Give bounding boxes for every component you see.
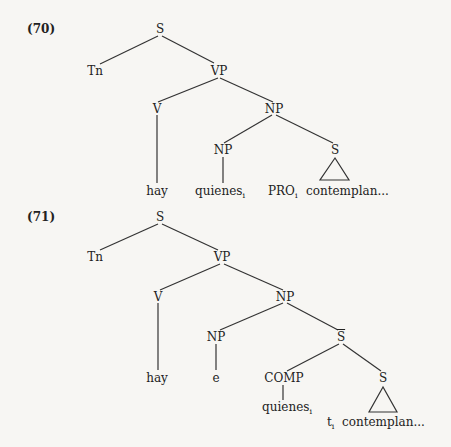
- leaf-hay: hay: [146, 372, 168, 384]
- node-tn: Tn: [87, 251, 103, 263]
- node-np: NP: [276, 291, 295, 303]
- node-v: V: [154, 291, 163, 303]
- leaf-pro: PROi: [268, 185, 298, 197]
- node-np-lower: NP: [207, 331, 226, 343]
- example-number: (71): [27, 211, 55, 223]
- index-subscript: i: [242, 191, 245, 200]
- node-s-embedded: S: [379, 372, 387, 384]
- node-s-embedded: S: [331, 144, 339, 156]
- node-np-lower: NP: [214, 144, 233, 156]
- index-subscript: i: [332, 422, 335, 431]
- example-number: (70): [27, 23, 55, 35]
- leaf-e: e: [212, 372, 219, 384]
- node-v: V: [153, 103, 162, 115]
- node-vp: VP: [214, 251, 231, 263]
- index-subscript: i: [309, 407, 312, 416]
- leaf-contemplan: contemplan...: [342, 416, 425, 428]
- index-subscript: i: [295, 191, 298, 200]
- leaf-pro-text: PRO: [268, 184, 295, 198]
- node-vp: VP: [211, 65, 228, 77]
- node-tn: Tn: [87, 65, 103, 77]
- leaf-trace: ti: [327, 416, 334, 428]
- leaf-quienes-text: quienes: [262, 400, 309, 414]
- node-np: NP: [265, 103, 284, 115]
- leaf-hay: hay: [146, 185, 168, 197]
- node-s: S: [156, 23, 164, 35]
- leaf-contemplan: contemplan...: [306, 185, 389, 197]
- leaf-quienes-text: quienes: [195, 184, 242, 198]
- syntax-tree-figure: (70) S Tn VP V NP NP S hay quienesi PROi…: [0, 0, 451, 447]
- node-comp: COMP: [264, 372, 303, 384]
- node-s-bar: S: [337, 331, 345, 343]
- leaf-quienes: quienesi: [262, 401, 312, 413]
- node-s: S: [156, 211, 164, 223]
- leaf-quienes: quienesi: [195, 185, 245, 197]
